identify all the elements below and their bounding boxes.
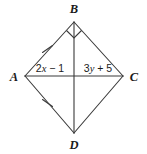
segment-label-right: 3y + 5 — [84, 62, 113, 74]
vertex-label-A: A — [9, 70, 18, 84]
segment-label-left: 2x − 1 — [36, 62, 65, 74]
geometry-figure: A B C D 2x − 1 3y + 5 — [0, 0, 147, 154]
segment-label-right-constant: 5 — [106, 62, 112, 74]
vertex-label-B: B — [69, 2, 78, 16]
vertex-label-C: C — [130, 70, 139, 84]
tick-mark-edge-AD — [43, 100, 53, 107]
edge-CD — [74, 76, 123, 133]
figure-canvas: A B C D 2x − 1 3y + 5 — [0, 0, 147, 154]
segment-label-left-constant: 1 — [58, 62, 64, 74]
vertex-label-D: D — [68, 138, 78, 152]
